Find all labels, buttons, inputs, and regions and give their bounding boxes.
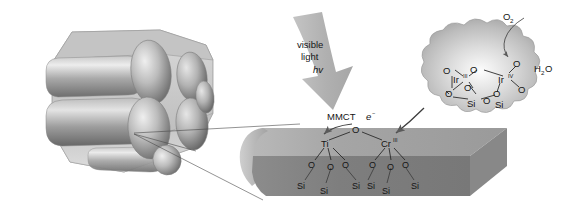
light-label-hv: hv — [313, 64, 324, 75]
cluster-oxygen-left: O — [443, 65, 450, 76]
surface-oxygen: O — [369, 160, 376, 170]
schematic-svg: visible light hv MMCT e − O O O O — [0, 0, 566, 207]
o2-label: O 2 — [503, 11, 514, 24]
cluster-iridium-four-state: IV — [508, 73, 514, 79]
cluster-blob-shape — [421, 19, 539, 113]
light-label-light: light — [301, 51, 319, 62]
surface-chromium: Cr — [381, 138, 391, 149]
surface-titanium: Ti — [321, 138, 329, 149]
cluster-oxygen-si-bridge: O — [483, 95, 490, 106]
figure-canvas: visible light hv MMCT e − O O O O — [0, 0, 566, 207]
cluster-iridium-three: Ir — [453, 74, 459, 85]
surface-bridge-oxygen: O — [352, 124, 359, 135]
surface-oxygen: O — [387, 162, 394, 172]
surface-silicon: Si — [367, 181, 375, 191]
mmct-label-group: MMCT e − — [327, 110, 375, 122]
cluster-oxygen-right-top: O — [513, 58, 520, 69]
slab-front-face — [252, 156, 470, 196]
surface-chromium-state: III — [393, 137, 398, 143]
slab-top-surface — [251, 128, 507, 156]
cluster-oxygen-lower-left: O — [445, 88, 452, 99]
cluster-oxygen-bridge-top: O — [470, 64, 477, 75]
cluster-iridium-four: Ir — [498, 74, 504, 85]
cluster-iridium-three-state: III — [463, 73, 468, 79]
mmct-electron-charge: − — [372, 110, 375, 116]
cluster-oxygen-right-bot: O — [518, 84, 525, 95]
h2o-hydrogen: H — [534, 63, 541, 74]
surface-silicon: Si — [320, 186, 328, 196]
cluster-silicon-left: Si — [467, 98, 475, 109]
pore-cylinder-top — [46, 56, 142, 97]
surface-oxygen: O — [402, 160, 409, 170]
h2o-label: H 2 O — [534, 63, 552, 76]
cluster-silicon-right: Si — [495, 99, 503, 110]
iridium-cluster: O O O O O O O Ir III Ir IV Si O Si — [421, 19, 539, 113]
surface-silicon: Si — [411, 181, 419, 191]
mmct-label: MMCT — [327, 111, 356, 122]
surface-silicon: Si — [297, 181, 305, 191]
mmct-electron-label: e — [366, 111, 371, 122]
surface-oxygen: O — [308, 160, 315, 170]
surface-oxygen: O — [342, 160, 349, 170]
cluster-oxygen-lower-right: O — [493, 88, 500, 99]
light-label-visible: visible — [297, 39, 323, 50]
surface-silicon: Si — [352, 181, 360, 191]
o2-subscript: 2 — [510, 17, 514, 24]
surface-silicon: Si — [382, 186, 390, 196]
h2o-oxygen: O — [545, 63, 552, 74]
cluster-oxygen-mid: O — [464, 82, 471, 93]
mesoporous-crystal — [46, 30, 216, 179]
surface-oxygen: O — [327, 162, 334, 172]
